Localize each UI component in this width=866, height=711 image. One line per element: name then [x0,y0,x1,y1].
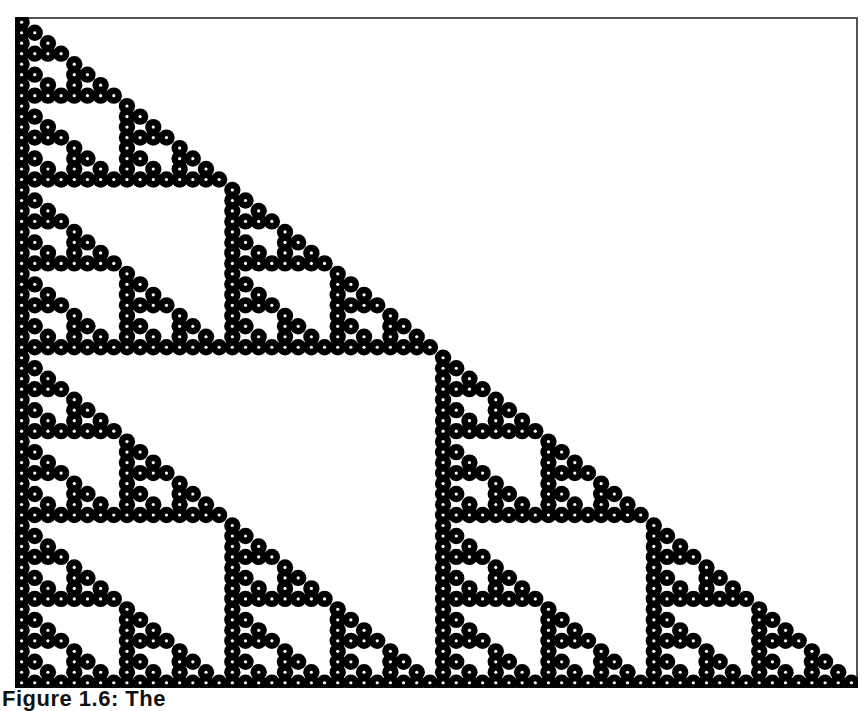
figure-caption: Figure 1.6: The [2,688,166,710]
sierpinski-fractal-figure [15,17,858,688]
